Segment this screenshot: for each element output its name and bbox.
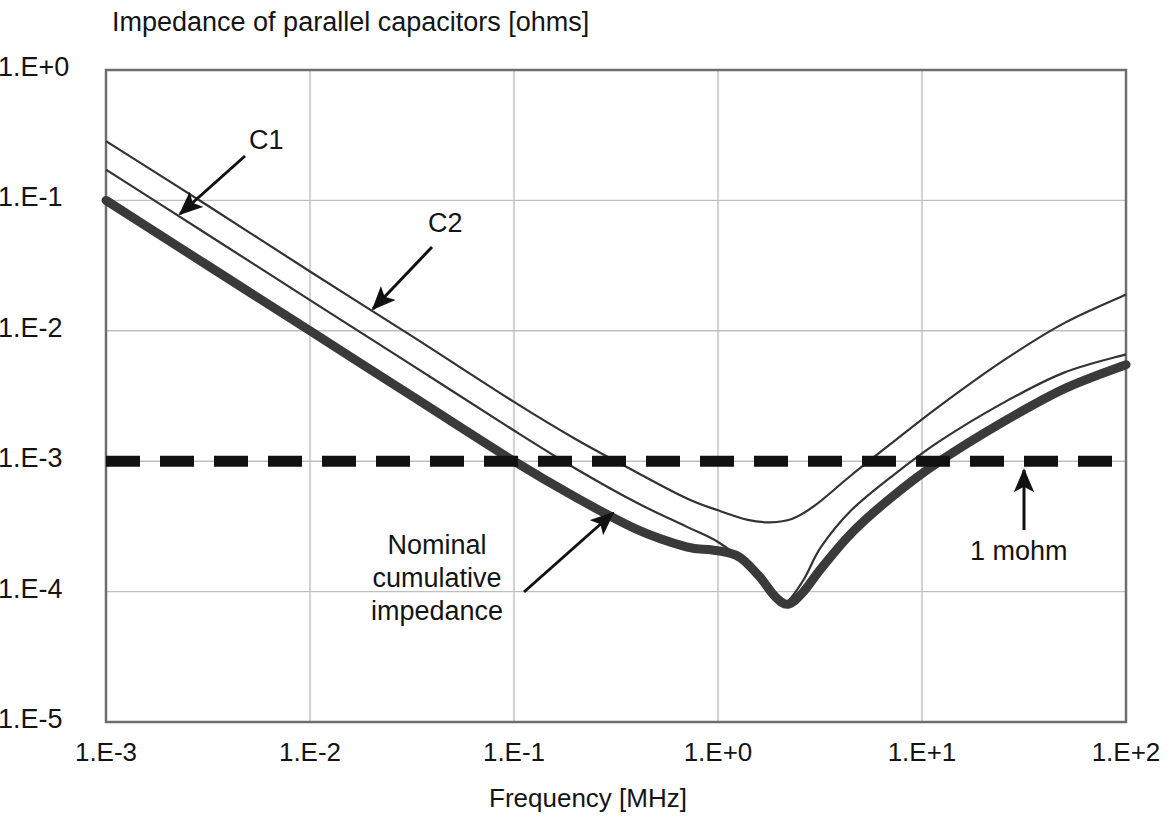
- annotation-arrows: [180, 156, 1024, 592]
- x-axis-tick-label: 1.E-3: [36, 737, 176, 768]
- plot-area: [0, 0, 1176, 827]
- nominal-arrow: [524, 513, 613, 592]
- gridlines: [106, 70, 1126, 722]
- x-axis-tick-label: 1.E+2: [1056, 737, 1176, 768]
- annotation-c2: C2: [428, 207, 463, 240]
- y-axis-tick-label: 1.E+0: [0, 52, 98, 83]
- c1-arrow: [180, 156, 245, 214]
- y-axis-tick-label: 1.E-4: [0, 574, 98, 605]
- annotation-nominal-cumulative-impedance: Nominal cumulative impedance: [337, 529, 537, 628]
- y-axis-tick-label: 1.E-2: [0, 313, 98, 344]
- x-axis-tick-label: 1.E-1: [444, 737, 584, 768]
- x-axis-tick-label: 1.E+0: [648, 737, 788, 768]
- y-axis-tick-label: 1.E-1: [0, 182, 98, 213]
- c2-arrow: [373, 247, 432, 309]
- plot-frame: [106, 70, 1126, 722]
- annotation-1-mohm: 1 mohm: [970, 535, 1068, 568]
- y-axis-tick-label: 1.E-5: [0, 704, 98, 735]
- chart-figure: Impedance of parallel capacitors [ohms] …: [0, 0, 1176, 827]
- x-axis-tick-label: 1.E+1: [852, 737, 992, 768]
- x-axis-title: Frequency [MHz]: [0, 783, 1176, 814]
- x-axis-tick-label: 1.E-2: [240, 737, 380, 768]
- y-axis-tick-label: 1.E-3: [0, 443, 98, 474]
- annotation-c1: C1: [249, 124, 284, 157]
